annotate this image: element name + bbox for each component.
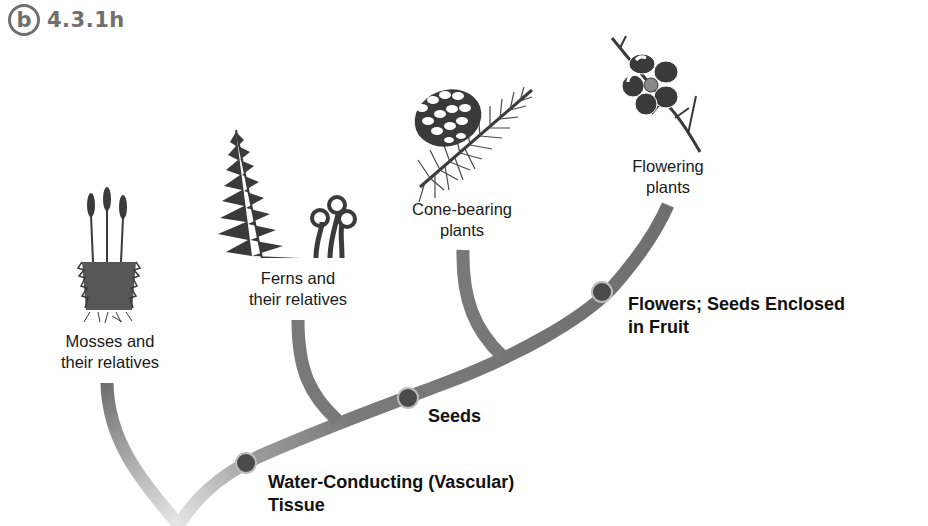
branch-ferns [298,320,337,420]
label-ferns: Ferns and their relatives [228,268,368,310]
label-cone-bearing: Cone-bearing plants [392,199,532,241]
moss-icon [78,187,140,323]
node-vascular [235,452,257,474]
trait-vascular: Water-Conducting (Vascular) Tissue [268,471,514,517]
trait-flowers: Flowers; Seeds Enclosed in Fruit [628,293,845,339]
node-seeds [397,387,419,409]
branch-cone-bearing [463,250,502,356]
flower-icon [612,36,700,152]
node-flowers [591,281,613,303]
branch-mosses [107,383,180,526]
label-flowering: Flowering plants [598,156,738,198]
pine-cone-icon [406,80,532,202]
trait-seeds: Seeds [428,405,481,428]
label-mosses: Mosses and their relatives [40,331,180,373]
phylogenetic-tree [0,0,928,526]
fern-icon [218,130,355,258]
